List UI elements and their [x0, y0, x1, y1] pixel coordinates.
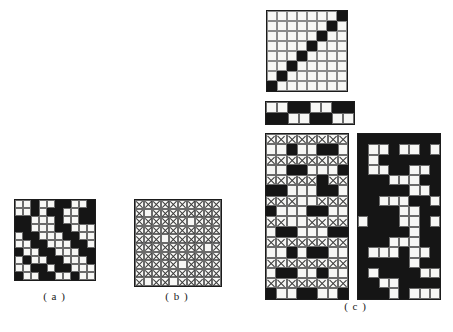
matrix-cell	[266, 278, 276, 288]
matrix-cell	[23, 224, 31, 232]
matrix-cell	[338, 175, 348, 185]
matrix-cell	[71, 264, 79, 272]
matrix-cell	[195, 252, 204, 261]
matrix-cell	[187, 243, 196, 252]
matrix-cell	[267, 31, 277, 41]
matrix-cell	[267, 81, 277, 91]
matrix-cell	[195, 209, 204, 218]
matrix-cell	[169, 269, 178, 278]
matrix-cell	[55, 272, 63, 280]
matrix-cell	[15, 256, 23, 264]
matrix-cell	[195, 243, 204, 252]
matrix-cell	[79, 208, 87, 216]
matrix-cell	[55, 216, 63, 224]
matrix-cell	[299, 113, 310, 124]
matrix-cell	[389, 227, 399, 237]
matrix-cell	[23, 256, 31, 264]
caption-b: ( b )	[134, 290, 220, 302]
matrix-cell	[327, 81, 337, 91]
matrix-cell	[71, 200, 79, 208]
matrix-cell	[152, 234, 161, 243]
matrix-cell	[379, 227, 389, 237]
matrix-cell	[287, 21, 297, 31]
matrix-cell	[63, 272, 71, 280]
matrix-cell	[409, 258, 419, 268]
matrix-cell	[55, 240, 63, 248]
matrix-cell	[187, 234, 196, 243]
matrix-cell	[204, 252, 213, 261]
matrix-cell	[55, 208, 63, 216]
matrix-cell	[307, 41, 317, 51]
matrix-cell	[297, 247, 307, 257]
matrix-cell	[297, 185, 307, 195]
matrix-cell	[276, 155, 286, 165]
matrix-cell	[169, 217, 178, 226]
matrix-cell	[31, 208, 39, 216]
matrix-cell	[307, 21, 317, 31]
matrix-cell	[277, 102, 288, 113]
matrix-cell	[277, 51, 287, 61]
matrix-cell	[266, 216, 276, 226]
matrix-panel-c-diagonal	[266, 10, 348, 92]
matrix-cell	[307, 31, 317, 41]
matrix-cell	[327, 51, 337, 61]
matrix-cell	[399, 196, 409, 206]
matrix-cell	[409, 206, 419, 216]
matrix-cell	[430, 155, 440, 165]
matrix-cell	[39, 264, 47, 272]
matrix-cell	[297, 216, 307, 226]
matrix-cell	[15, 248, 23, 256]
matrix-cell	[389, 237, 399, 247]
matrix-cell	[399, 288, 409, 298]
matrix-cell	[358, 268, 368, 278]
matrix-cell	[266, 134, 276, 144]
matrix-cell	[23, 200, 31, 208]
caption-c: ( c )	[265, 300, 446, 312]
matrix-cell	[47, 272, 55, 280]
matrix-cell	[328, 185, 338, 195]
matrix-cell	[307, 155, 317, 165]
matrix-cell	[430, 206, 440, 216]
matrix-cell	[287, 237, 297, 247]
matrix-cell	[409, 196, 419, 206]
matrix-cell	[31, 248, 39, 256]
matrix-cell	[337, 11, 347, 21]
matrix-cell	[23, 232, 31, 240]
matrix-cell	[368, 278, 378, 288]
matrix-cell	[358, 258, 368, 268]
matrix-cell	[63, 256, 71, 264]
matrix-cell	[358, 175, 368, 185]
matrix-cell	[420, 175, 430, 185]
matrix-cell	[399, 268, 409, 278]
matrix-cell	[287, 175, 297, 185]
matrix-cell	[328, 216, 338, 226]
matrix-cell	[15, 240, 23, 248]
matrix-cell	[430, 165, 440, 175]
matrix-cell	[297, 175, 307, 185]
matrix-cell	[379, 165, 389, 175]
matrix-cell	[297, 206, 307, 216]
matrix-cell	[71, 272, 79, 280]
matrix-cell	[187, 200, 196, 209]
matrix-cell	[152, 243, 161, 252]
matrix-cell	[287, 227, 297, 237]
matrix-cell	[368, 175, 378, 185]
matrix-cell	[152, 200, 161, 209]
matrix-cell	[79, 264, 87, 272]
matrix-cell	[358, 227, 368, 237]
matrix-cell	[368, 206, 378, 216]
matrix-cell	[287, 288, 297, 298]
matrix-cell	[409, 185, 419, 195]
matrix-cell	[204, 200, 213, 209]
matrix-cell	[317, 185, 327, 195]
matrix-cell	[266, 113, 277, 124]
matrix-cell	[379, 196, 389, 206]
matrix-cell	[195, 234, 204, 243]
matrix-cell	[368, 185, 378, 195]
matrix-cell	[276, 227, 286, 237]
matrix-cell	[307, 61, 317, 71]
matrix-cell	[195, 277, 204, 286]
matrix-cell	[144, 226, 153, 235]
matrix-cell	[307, 227, 317, 237]
matrix-cell	[63, 200, 71, 208]
